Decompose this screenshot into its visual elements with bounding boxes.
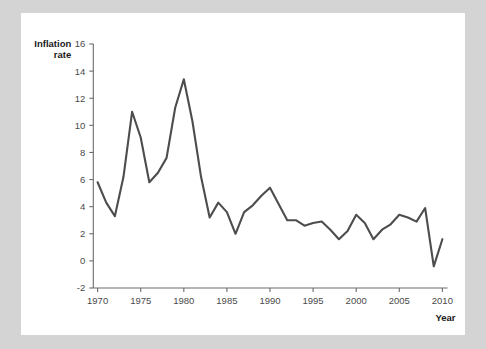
chart-panel: -20246810121416 197019751980198519901995… bbox=[21, 13, 465, 335]
x-tick-label: 2010 bbox=[432, 295, 453, 306]
y-tick-label: 8 bbox=[80, 147, 85, 158]
x-tick-label: 1975 bbox=[130, 295, 151, 306]
x-tick-label: 2005 bbox=[389, 295, 410, 306]
x-tick-label: 1985 bbox=[216, 295, 237, 306]
inflation-rate-line-chart: -20246810121416 197019751980198519901995… bbox=[21, 13, 465, 335]
x-axis-tick-group: 197019751980198519901995200020052010 bbox=[87, 288, 453, 306]
y-tick-label: 16 bbox=[75, 38, 86, 49]
x-tick-label: 1995 bbox=[303, 295, 324, 306]
x-tick-label: 1990 bbox=[259, 295, 280, 306]
y-tick-label: 10 bbox=[75, 120, 86, 131]
x-axis-title: Year bbox=[435, 312, 455, 323]
x-tick-label: 1980 bbox=[173, 295, 194, 306]
chart-page: -20246810121416 197019751980198519901995… bbox=[0, 0, 486, 349]
inflation-rate-series bbox=[98, 79, 443, 266]
x-tick-label: 1970 bbox=[87, 295, 108, 306]
y-tick-label: 4 bbox=[80, 201, 85, 212]
y-tick-label: 14 bbox=[75, 66, 86, 77]
y-axis-title-line2: rate bbox=[54, 49, 71, 60]
y-tick-label: 6 bbox=[80, 174, 85, 185]
y-tick-label: 2 bbox=[80, 228, 85, 239]
y-axis-tick-group: -20246810121416 bbox=[75, 38, 94, 293]
y-axis-title-line1: Inflation bbox=[34, 38, 71, 49]
y-tick-label: 12 bbox=[75, 93, 86, 104]
y-tick-label: -2 bbox=[77, 282, 85, 293]
x-tick-label: 2000 bbox=[346, 295, 367, 306]
y-tick-label: 0 bbox=[80, 255, 85, 266]
